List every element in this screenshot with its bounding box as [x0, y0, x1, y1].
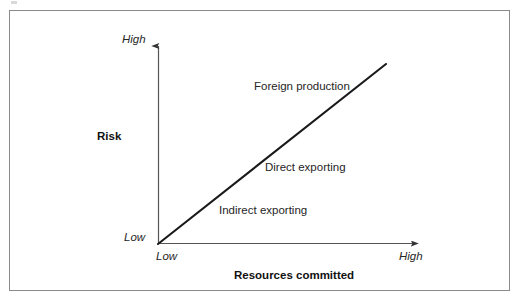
annotation-foreign-production: Foreign production	[254, 80, 350, 92]
x-axis-title: Resources committed	[234, 269, 354, 281]
y-axis-low-label: Low	[124, 231, 145, 243]
annotation-indirect-exporting: Indirect exporting	[219, 204, 307, 216]
axes-and-trendline-svg	[0, 0, 527, 303]
x-axis-low-label: Low	[156, 250, 177, 262]
y-axis-high-label: High	[122, 33, 146, 45]
x-axis-high-label: High	[399, 250, 423, 262]
figure-screenshot: High Low Low High Risk Resources committ…	[0, 0, 527, 303]
y-axis-title: Risk	[97, 130, 121, 142]
plot-area: High Low Low High Risk Resources committ…	[0, 0, 527, 303]
annotation-direct-exporting: Direct exporting	[265, 161, 346, 173]
